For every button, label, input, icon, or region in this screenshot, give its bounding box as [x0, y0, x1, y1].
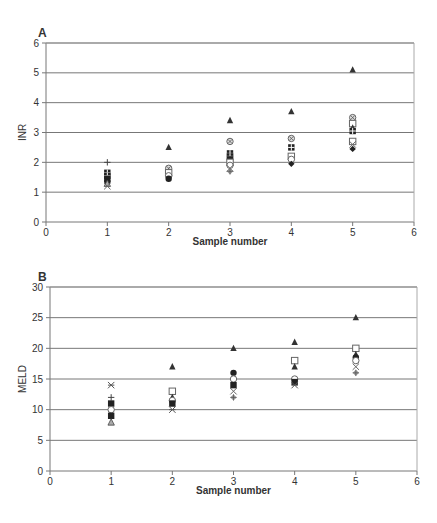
data-point-asterisk — [169, 406, 175, 412]
data-point-filled-triangle — [230, 345, 236, 351]
panel-label: A — [38, 26, 47, 40]
x-tick-label: 1 — [105, 227, 111, 238]
y-tick-label: 15 — [32, 374, 44, 385]
data-point-filled-triangle — [169, 363, 175, 369]
data-point-filled-circle — [230, 370, 236, 376]
x-tick-label: 0 — [47, 476, 53, 487]
x-axis-title: Sample number — [192, 236, 267, 247]
x-tick-label: 5 — [353, 476, 359, 487]
data-points — [104, 66, 356, 189]
data-point-asterisk — [108, 382, 114, 388]
data-point-open-square — [349, 138, 355, 144]
data-point-x — [353, 364, 359, 370]
data-point-filled-triangle — [288, 108, 294, 114]
y-tick-label: 5 — [37, 435, 43, 446]
y-tick-label: 3 — [33, 127, 39, 138]
data-point-x — [230, 388, 236, 394]
x-tick-label: 1 — [108, 476, 114, 487]
x-tick-label: 4 — [292, 476, 298, 487]
y-tick-label: 6 — [33, 38, 39, 49]
x-tick-label: 2 — [166, 227, 172, 238]
y-tick-label: 25 — [32, 312, 44, 323]
data-points — [108, 314, 359, 425]
y-axis-title: MELD — [17, 365, 28, 393]
data-point-open-square — [353, 345, 359, 351]
panel-b-meld: B0510152025300123456Sample numberMELD — [0, 260, 437, 523]
y-tick-label: 20 — [32, 343, 44, 354]
data-point-triangle-open — [108, 419, 114, 425]
data-point-filled-square — [108, 400, 114, 406]
data-point-diamond-plus — [353, 370, 359, 376]
y-tick-label: 5 — [33, 67, 39, 78]
y-tick-label: 0 — [33, 217, 39, 228]
data-point-filled-triangle — [227, 117, 233, 123]
y-tick-label: 0 — [37, 466, 43, 477]
data-point-grid-square — [349, 128, 355, 134]
data-point-filled-triangle — [349, 66, 355, 72]
y-tick-label: 4 — [33, 97, 39, 108]
inr-scatter-plot: A01234560123456Sample numberINR — [0, 0, 437, 260]
data-point-open-circle — [230, 376, 236, 382]
y-axis-title: INR — [17, 124, 28, 141]
meld-scatter-plot: B0510152025300123456Sample numberMELD — [0, 260, 437, 523]
data-point-circle-x — [349, 114, 355, 120]
y-tick-label: 30 — [32, 282, 44, 293]
x-tick-label: 6 — [411, 227, 417, 238]
data-point-diamond-plus — [227, 168, 233, 174]
x-tick-label: 5 — [350, 227, 356, 238]
x-tick-label: 4 — [289, 227, 295, 238]
data-point-filled-triangle — [291, 339, 297, 345]
data-point-open-circle — [227, 162, 233, 168]
data-point-plus — [108, 394, 114, 400]
y-tick-label: 10 — [32, 404, 44, 415]
x-axis-title: Sample number — [196, 485, 271, 496]
data-point-circle-x — [288, 135, 294, 141]
data-point-filled-square — [291, 379, 297, 385]
data-point-circle-x — [227, 138, 233, 144]
data-point-plus — [104, 159, 110, 165]
data-point-open-circle — [353, 357, 359, 363]
y-tick-label: 1 — [33, 187, 39, 198]
data-point-filled-square — [169, 400, 175, 406]
data-point-filled-triangle — [165, 144, 171, 150]
x-tick-label: 2 — [170, 476, 176, 487]
data-point-open-circle — [108, 406, 114, 412]
data-point-grid-square — [288, 144, 294, 150]
x-tick-label: 6 — [414, 476, 420, 487]
data-point-diamond-plus — [230, 394, 236, 400]
y-tick-label: 2 — [33, 157, 39, 168]
panel-a-inr: A01234560123456Sample numberINR — [0, 0, 437, 260]
data-point-filled-square — [230, 382, 236, 388]
data-point-open-square — [291, 357, 297, 363]
data-point-filled-circle — [165, 176, 171, 182]
data-point-open-square — [169, 388, 175, 394]
x-tick-label: 0 — [43, 227, 49, 238]
